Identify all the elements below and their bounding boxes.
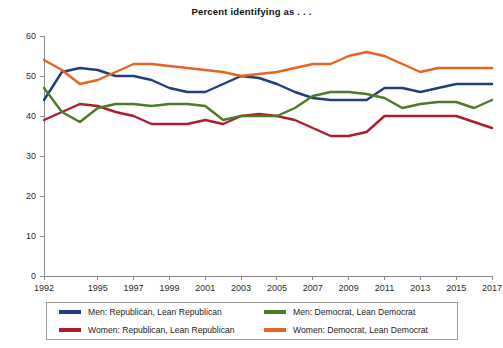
y-tick-label: 10 [26, 231, 36, 241]
series-line-women_republican [44, 104, 492, 136]
y-axis: 0102030405060 [26, 31, 44, 281]
legend-item[interactable]: Men: Republican, Lean Republican [47, 307, 252, 317]
chart-legend: Men: Republican, Lean RepublicanMen: Dem… [46, 302, 458, 340]
x-tick-label: 2013 [410, 283, 430, 292]
x-tick-label: 2003 [231, 283, 251, 292]
line-chart-svg: 0102030405060 19921995199719992001200320… [0, 20, 503, 292]
chart-title: Percent identifying as . . . [0, 6, 503, 17]
x-tick-label: 2015 [446, 283, 466, 292]
x-tick-label: 1997 [124, 283, 144, 292]
legend-item[interactable]: Women: Republican, Lean Republican [47, 325, 252, 335]
plot-area: 0102030405060 19921995199719992001200320… [0, 20, 503, 292]
series-line-women_democrat [44, 52, 492, 84]
legend-grid: Men: Republican, Lean RepublicanMen: Dem… [47, 303, 457, 339]
y-tick-label: 50 [26, 71, 36, 81]
y-tick-label: 40 [26, 111, 36, 121]
legend-swatch-icon [59, 310, 81, 314]
y-tick-label: 60 [26, 31, 36, 41]
legend-item[interactable]: Women: Democrat, Lean Democrat [252, 325, 457, 335]
legend-swatch-icon [264, 310, 286, 314]
x-tick-label: 2001 [195, 283, 215, 292]
x-tick-label: 1999 [159, 283, 179, 292]
x-tick-label: 2005 [267, 283, 287, 292]
legend-swatch-icon [59, 328, 81, 332]
legend-label: Women: Democrat, Lean Democrat [293, 325, 428, 335]
x-tick-label: 2007 [303, 283, 323, 292]
legend-label: Women: Republican, Lean Republican [88, 325, 235, 335]
chart-figure: Percent identifying as . . . 01020304050… [0, 0, 503, 348]
data-series-group [44, 52, 492, 136]
x-tick-label: 2011 [375, 283, 394, 292]
y-tick-label: 0 [31, 271, 36, 281]
y-tick-label: 30 [26, 151, 36, 161]
x-axis: 1992199519971999200120032005200720092011… [34, 276, 502, 292]
legend-label: Men: Democrat, Lean Democrat [293, 307, 415, 317]
legend-item[interactable]: Men: Democrat, Lean Democrat [252, 307, 457, 317]
x-tick-label: 2009 [339, 283, 359, 292]
x-tick-label: 1992 [34, 283, 54, 292]
legend-label: Men: Republican, Lean Republican [88, 307, 222, 317]
x-tick-label: 1995 [88, 283, 108, 292]
legend-swatch-icon [264, 328, 286, 332]
x-tick-label: 2017 [482, 283, 502, 292]
y-tick-label: 20 [26, 191, 36, 201]
